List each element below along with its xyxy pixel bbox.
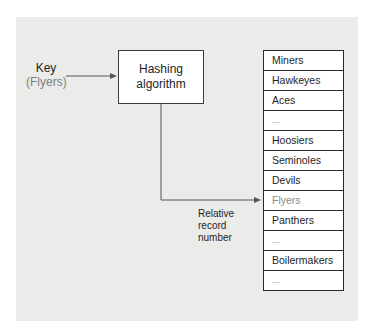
record-row: Boilermakers [264, 251, 343, 271]
hash-line-2: algorithm [136, 77, 185, 92]
relative-record-number-label: Relative record number [198, 208, 234, 244]
record-row-ellipsis: ... [264, 111, 343, 131]
hashing-algorithm-box: Hashing algorithm [118, 50, 204, 104]
record-row: Panthers [264, 211, 343, 231]
rel-line-3: number [198, 232, 234, 244]
record-row: Hoosiers [264, 131, 343, 151]
record-table: Miners Hawkeyes Aces ... Hoosiers Semino… [263, 50, 344, 291]
record-row: Miners [264, 51, 343, 71]
record-row: Aces [264, 91, 343, 111]
record-row-ellipsis: ... [264, 271, 343, 290]
record-row-highlighted: Flyers [264, 191, 343, 211]
record-row-ellipsis: ... [264, 231, 343, 251]
hash-line-1: Hashing [136, 62, 185, 77]
record-row: Seminoles [264, 151, 343, 171]
record-row: Hawkeyes [264, 71, 343, 91]
rel-line-2: record [198, 220, 234, 232]
arrow-key-to-hash-icon [110, 73, 117, 79]
key-value: (Flyers) [26, 75, 66, 90]
record-row: Devils [264, 171, 343, 191]
arrow-to-record-icon [254, 197, 261, 203]
key-label: Key [26, 61, 66, 76]
rel-line-1: Relative [198, 208, 234, 220]
